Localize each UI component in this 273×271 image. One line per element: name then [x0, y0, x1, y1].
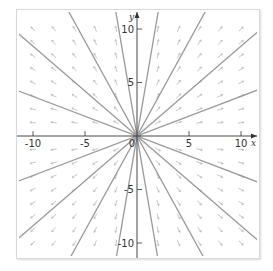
field-arrow: [197, 67, 201, 71]
field-arrow: [177, 80, 181, 85]
field-arrow: [218, 81, 223, 84]
field-arrow: [31, 241, 35, 245]
x-tick-label: 5: [186, 138, 192, 149]
y-axis-label: y: [128, 12, 135, 22]
field-arrow: [73, 53, 77, 58]
field-arrow: [73, 40, 76, 45]
field-arrow: [196, 121, 202, 123]
field-arrow: [51, 148, 57, 150]
field-arrow: [94, 227, 97, 232]
field-arrow: [115, 39, 117, 45]
field-arrow: [114, 107, 118, 112]
field-arrow: [115, 187, 118, 193]
field-arrow: [72, 121, 78, 123]
field-arrow: [51, 94, 56, 97]
field-arrow: [176, 161, 181, 164]
field-arrow: [73, 214, 77, 219]
field-arrow: [176, 174, 180, 178]
field-arrow: [238, 81, 243, 84]
field-arrow: [157, 26, 159, 32]
field-arrow: [177, 200, 180, 205]
field-arrow: [51, 162, 57, 164]
field-arrow: [31, 27, 35, 31]
field-arrow: [197, 201, 201, 205]
field-arrow: [31, 54, 36, 58]
field-arrow: [73, 67, 77, 71]
field-arrow: [239, 40, 244, 44]
field-arrow: [239, 214, 244, 218]
field-arrow: [218, 241, 222, 246]
field-arrow: [94, 40, 97, 45]
field-arrow: [177, 187, 181, 192]
field-arrow: [217, 94, 222, 97]
field-arrow: [239, 228, 244, 232]
field-arrow: [51, 175, 56, 178]
field-arrow: [114, 121, 119, 124]
field-arrow: [157, 53, 159, 59]
field-arrow: [217, 148, 223, 150]
field-arrow: [157, 227, 159, 233]
field-arrow: [31, 214, 36, 218]
field-arrow: [115, 213, 117, 219]
field-arrow: [177, 227, 180, 232]
field-arrow: [156, 160, 160, 165]
y-tick-label: -10: [118, 238, 134, 249]
field-arrow: [94, 26, 97, 32]
field-arrow: [115, 227, 117, 233]
axes: [17, 12, 257, 258]
field-arrow: [177, 26, 180, 32]
field-arrow: [239, 27, 243, 31]
field-arrow: [93, 94, 97, 98]
x-tick-label: -5: [80, 138, 90, 149]
field-arrow: [51, 67, 56, 71]
field-arrow: [157, 213, 159, 219]
field-arrow: [115, 80, 118, 86]
field-arrow: [73, 240, 76, 245]
field-arrow: [238, 121, 244, 123]
field-arrow: [217, 175, 222, 178]
field-arrow: [52, 214, 56, 218]
field-arrow: [198, 240, 201, 245]
field-arrow: [217, 162, 223, 164]
field-arrow: [197, 108, 203, 111]
field-arrow: [31, 40, 36, 44]
field-arrow: [94, 80, 98, 85]
field-arrow: [157, 66, 159, 72]
y-tick-label: 5: [128, 77, 134, 88]
field-arrow: [198, 214, 202, 219]
x-tick-label: -10: [25, 138, 41, 149]
field-arrow: [52, 27, 56, 32]
field-arrow: [177, 240, 180, 246]
field-arrow: [177, 67, 180, 72]
field-arrow: [197, 175, 202, 178]
field-arrow: [218, 188, 223, 191]
field-arrow: [30, 108, 36, 110]
field-arrow: [30, 188, 35, 191]
field-arrow: [196, 149, 202, 151]
field-arrow: [157, 200, 159, 206]
field-arrow: [238, 108, 244, 110]
field-arrow: [72, 149, 78, 151]
field-arrow: [94, 67, 97, 72]
field-arrow: [52, 227, 56, 231]
phase-portrait-plot: -10-50510-10-5510 x y: [17, 10, 259, 258]
field-arrow: [30, 201, 35, 204]
field-arrow: [218, 227, 222, 231]
field-arrow: [30, 162, 36, 164]
field-arrow: [218, 40, 222, 44]
field-arrow: [198, 227, 201, 232]
y-tick-label: -5: [124, 184, 134, 195]
field-arrow: [115, 66, 117, 72]
x-tick-label: 10: [235, 138, 248, 149]
field-arrow: [218, 67, 223, 71]
field-arrow: [239, 54, 244, 58]
field-arrow: [72, 162, 78, 165]
field-arrow: [93, 108, 98, 111]
field-arrow: [52, 40, 56, 44]
field-arrow: [197, 94, 202, 97]
field-arrow: [73, 26, 76, 31]
field-arrow: [176, 94, 180, 98]
field-arrow: [198, 26, 201, 31]
field-arrow: [93, 174, 97, 178]
field-arrow: [176, 108, 181, 111]
